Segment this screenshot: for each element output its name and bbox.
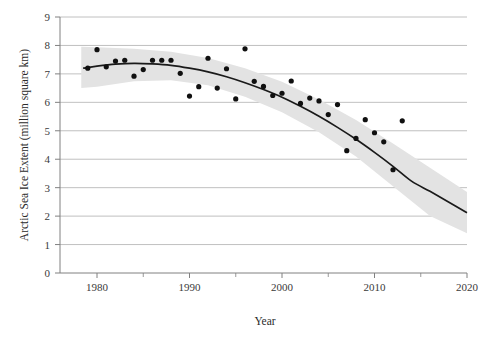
svg-text:1: 1	[45, 239, 51, 251]
svg-text:6: 6	[45, 96, 51, 108]
svg-text:5: 5	[45, 125, 51, 137]
svg-text:8: 8	[45, 39, 51, 51]
svg-text:0: 0	[45, 267, 51, 279]
svg-text:4: 4	[45, 153, 51, 165]
svg-text:2020: 2020	[456, 281, 479, 293]
svg-text:3: 3	[45, 182, 51, 194]
arctic-sea-ice-scatter-chart: 19801990200020102020 0123456789 Year Arc…	[0, 0, 490, 348]
svg-text:2010: 2010	[364, 281, 387, 293]
svg-text:1980: 1980	[86, 281, 109, 293]
svg-text:7: 7	[45, 68, 51, 80]
chart-figure: 19801990200020102020 0123456789 Year Arc…	[0, 0, 490, 348]
svg-text:1990: 1990	[179, 281, 202, 293]
y-axis-title: Arctic Sea Ice Extent (million square km…	[18, 49, 31, 241]
svg-text:2: 2	[45, 210, 51, 222]
x-axis-title: Year	[254, 315, 275, 327]
svg-text:9: 9	[45, 11, 51, 23]
svg-text:2000: 2000	[271, 281, 294, 293]
